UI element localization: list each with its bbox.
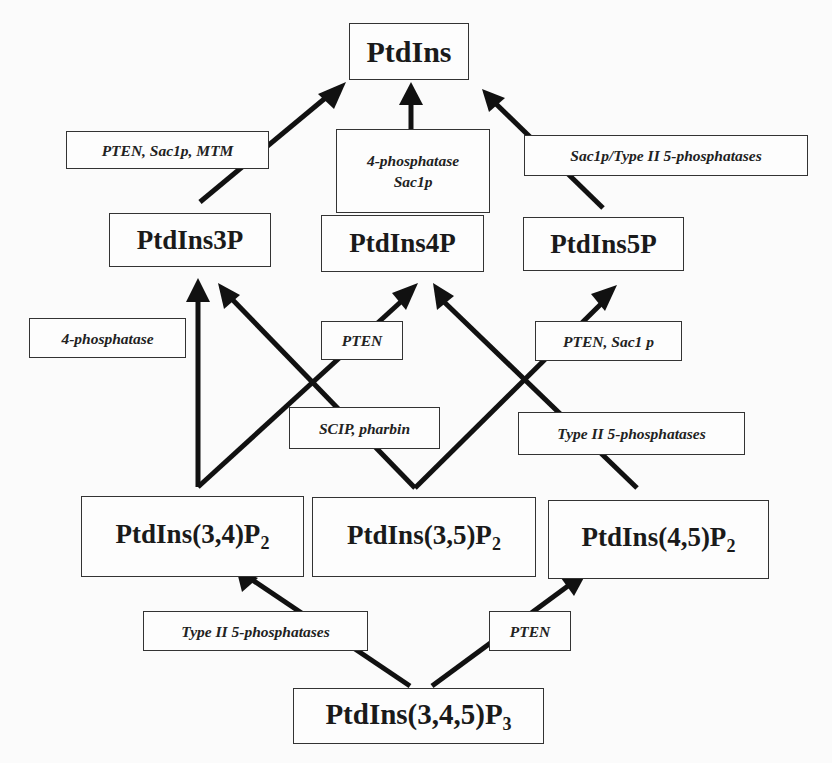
node-label: PtdIns(3,4,5)P3 bbox=[325, 698, 511, 735]
node-label-subscript: 2 bbox=[492, 534, 501, 554]
node-ptdins345p3: PtdIns(3,4,5)P3 bbox=[293, 688, 544, 744]
node-ptdins3p: PtdIns3P bbox=[109, 213, 271, 267]
node-ptdins4p: PtdIns4P bbox=[321, 215, 484, 272]
node-label: PtdIns bbox=[366, 35, 451, 69]
arrowhead-icon bbox=[399, 82, 423, 105]
enzyme-label-34-to-3p: 4-phosphatase bbox=[29, 318, 186, 358]
node-label-base: PtdIns(3,5)P bbox=[347, 520, 492, 550]
node-label-base: PtdIns(3,4)P bbox=[116, 519, 261, 549]
arrowhead-icon bbox=[186, 278, 210, 302]
node-label: PtdIns3P bbox=[137, 225, 244, 256]
node-label: PtdIns5P bbox=[550, 229, 657, 260]
enzyme-text: SCIP, pharbin bbox=[319, 418, 410, 439]
enzyme-label-35-to-5p: PTEN, Sac1 p bbox=[535, 321, 682, 361]
enzyme-label-345-to-34: Type II 5-phosphatases bbox=[143, 611, 368, 651]
node-label: PtdIns(3,5)P2 bbox=[347, 520, 501, 555]
enzyme-text: Sac1p/Type II 5-phosphatases bbox=[570, 145, 761, 166]
node-ptdins34p2: PtdIns(3,4)P2 bbox=[81, 496, 304, 577]
node-label: PtdIns(3,4)P2 bbox=[116, 519, 270, 554]
enzyme-label-34-to-4p: PTEN bbox=[321, 321, 403, 360]
enzyme-text: PTEN bbox=[510, 621, 550, 642]
enzyme-label-3p-to-ptdins: PTEN, Sac1p, MTM bbox=[66, 131, 269, 169]
node-label: PtdIns(4,5)P2 bbox=[582, 522, 736, 557]
arrows-layer bbox=[0, 0, 832, 763]
node-ptdins45p2: PtdIns(4,5)P2 bbox=[548, 500, 769, 579]
enzyme-label-45-to-4p: Type II 5-phosphatases bbox=[518, 412, 745, 455]
node-label-base: PtdIns(3,4,5)P bbox=[325, 698, 502, 730]
enzyme-label-345-to-45: PTEN bbox=[489, 611, 571, 651]
enzyme-label-5p-to-ptdins: Sac1p/Type II 5-phosphatases bbox=[524, 135, 808, 176]
enzyme-text: Sac1p bbox=[394, 171, 433, 192]
node-label: PtdIns4P bbox=[349, 228, 456, 259]
node-label-subscript: 2 bbox=[726, 536, 735, 556]
enzyme-label-4p-to-ptdins: 4-phosphataseSac1p bbox=[336, 129, 490, 213]
enzyme-text: Type II 5-phosphatases bbox=[557, 423, 705, 444]
enzyme-text: Type II 5-phosphatases bbox=[181, 621, 329, 642]
arrowhead-icon bbox=[318, 82, 346, 109]
enzyme-text: 4-phosphatase bbox=[61, 328, 153, 349]
enzyme-label-35-to-3p: SCIP, pharbin bbox=[289, 407, 440, 449]
enzyme-text: PTEN bbox=[342, 330, 382, 351]
node-ptdins: PtdIns bbox=[349, 23, 469, 80]
node-label-subscript: 2 bbox=[260, 533, 269, 553]
enzyme-text: PTEN, Sac1p, MTM bbox=[102, 140, 234, 161]
enzyme-text: PTEN, Sac1 p bbox=[563, 331, 654, 352]
node-label-subscript: 3 bbox=[503, 714, 512, 734]
enzyme-text: 4-phosphatase bbox=[367, 150, 459, 171]
node-ptdins5p: PtdIns5P bbox=[523, 217, 684, 271]
node-ptdins35p2: PtdIns(3,5)P2 bbox=[312, 497, 536, 577]
node-label-base: PtdIns(4,5)P bbox=[582, 522, 727, 552]
